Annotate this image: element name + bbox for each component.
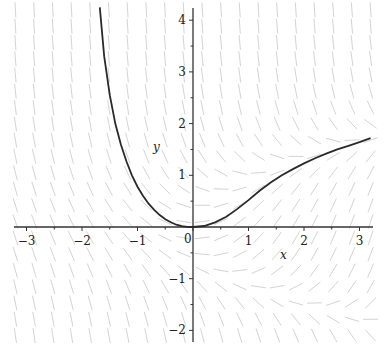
x-tick-label: −3 [18,234,36,248]
slope-segment [333,2,334,17]
slope-segment [202,2,203,17]
slope-segment [219,100,222,115]
slope-segment [15,19,16,34]
slope-segment [126,117,129,132]
slope-segment [290,135,301,145]
slope-segment [183,35,184,50]
slope-segment [349,231,354,245]
slope-segment [124,264,131,277]
slope-segment [163,328,166,343]
slope-segment [140,217,152,226]
slope-segment [313,84,316,99]
slope-segment [292,248,300,260]
slope-segment [177,203,191,208]
slope-segment [33,312,36,327]
slope-segment [183,84,185,99]
slope-segment [142,264,151,276]
slope-segment [271,299,284,307]
slope-segment [89,100,91,115]
slope-segment [214,169,227,176]
slope-segment [366,330,376,341]
slope-field-plot: −3−2−1123 −2−11234 0 x y [0,0,387,354]
slope-segment [14,296,17,311]
slope-segment [275,329,280,343]
slope-segment [108,19,109,34]
slope-segment [90,19,91,34]
slope-segment [106,264,113,278]
slope-segment [370,51,372,66]
slope-segment [123,216,133,227]
slope-segment [368,198,373,212]
y-tick-label: 1 [178,168,186,182]
slope-segment [253,232,263,243]
slope-segment [333,19,334,34]
slope-segment [177,251,191,257]
slope-segment [89,68,91,83]
slope-segment [219,328,223,342]
slope-segment [216,151,225,163]
slope-segment [217,297,225,310]
slope-segment [198,150,206,163]
slope-segment [295,19,296,34]
slope-segment [368,231,373,245]
slope-segment [88,149,92,163]
slope-segment [329,167,338,179]
slope-segment [367,280,374,293]
slope-segment [200,117,204,131]
slope-segment [14,328,16,343]
slope-segment [52,51,53,66]
slope-segment [351,19,352,34]
slope-segment [329,118,338,130]
slope-segment [51,279,55,293]
slope-segment [68,198,74,212]
slope-segment [258,2,259,17]
slope-segment [220,51,222,66]
slope-segment [108,2,109,17]
slope-segment [127,2,128,17]
slope-segment [251,172,266,173]
slope-segment [161,166,169,178]
slope-segment [365,119,377,128]
slope-segment [68,247,74,261]
slope-segment [233,251,246,258]
slope-segment [71,2,72,17]
slope-segment [258,19,259,34]
slope-segment [127,35,128,50]
x-tick-label: 1 [245,234,253,248]
slope-segment [52,116,54,131]
slope-segment [332,51,334,66]
slope-segment [108,328,111,343]
slope-segment [142,183,151,195]
slope-segment [291,265,301,276]
slope-segment [125,280,131,294]
slope-segment [108,35,109,50]
slope-segment [253,249,264,259]
slope-segment [180,150,187,163]
slope-segment [89,312,92,327]
slope-segment [89,84,91,99]
slope-segment [195,187,209,192]
slope-segment [33,100,35,115]
slope-segment [14,100,16,115]
slope-segment [32,279,36,294]
slope-segment [50,182,55,196]
slope-segment [105,215,114,227]
slope-segment [271,266,283,275]
slope-segment [107,149,112,163]
slope-segment [108,100,110,115]
slope-segment [239,35,240,50]
slope-segment [348,166,356,179]
slope-segment [143,280,150,293]
slope-segment [52,2,53,17]
slope-segment [293,329,299,343]
slope-segment [202,35,203,50]
x-tick-label: 2 [300,234,308,248]
slope-segment [50,263,55,277]
slope-segment [291,183,300,195]
slope-segment [164,51,165,66]
slope-segment [69,182,74,196]
slope-segment [70,328,72,343]
slope-segment [33,68,34,83]
slope-segment [239,51,241,66]
slope-segment [181,133,186,147]
